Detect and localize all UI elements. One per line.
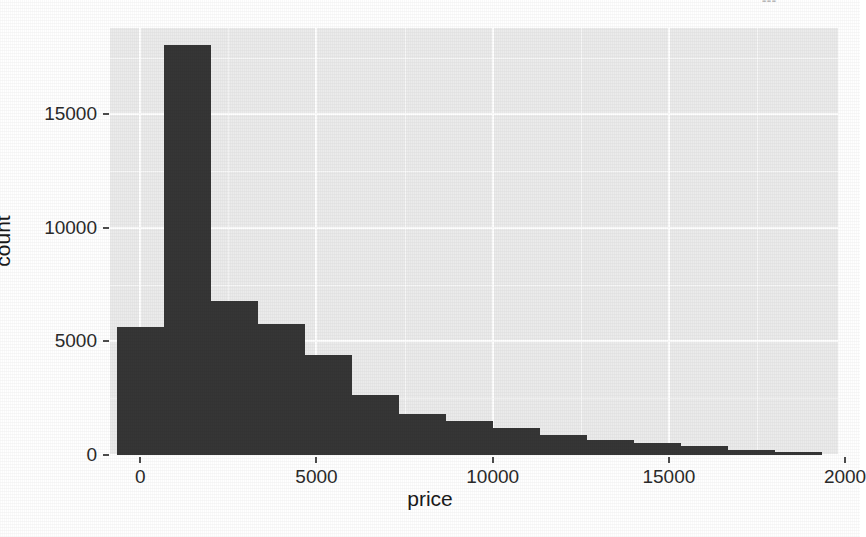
gridline-y-major bbox=[110, 227, 838, 229]
gridline-x-major bbox=[492, 28, 494, 455]
gridline-x-minor bbox=[757, 28, 758, 455]
histogram-bar bbox=[211, 301, 258, 455]
histogram-bar bbox=[681, 446, 728, 455]
gridline-x-major bbox=[668, 28, 670, 455]
y-tick-mark bbox=[103, 340, 109, 342]
x-axis-title: price bbox=[0, 487, 860, 511]
y-axis-title: count bbox=[0, 215, 15, 266]
gridline-y-minor bbox=[110, 171, 838, 172]
histogram-bar bbox=[775, 452, 822, 455]
histogram-bar bbox=[164, 45, 211, 455]
x-tick-label: 10000 bbox=[466, 466, 519, 488]
histogram-bar bbox=[587, 440, 634, 455]
y-tick-mark bbox=[103, 113, 109, 115]
y-tick-mark bbox=[103, 454, 109, 456]
x-tick-label: 5000 bbox=[295, 466, 337, 488]
y-tick-mark bbox=[103, 227, 109, 229]
x-tick-mark bbox=[668, 457, 670, 463]
histogram-bar bbox=[352, 395, 399, 455]
histogram-bar bbox=[493, 428, 540, 455]
histogram-bar bbox=[117, 327, 164, 455]
x-tick-label: 2000 bbox=[824, 466, 866, 488]
histogram-bar bbox=[634, 443, 681, 455]
gridline-x-minor bbox=[581, 28, 582, 455]
gridline-y-minor bbox=[110, 285, 838, 286]
plot-panel bbox=[110, 28, 838, 455]
page-edge-artifact-text: --- bbox=[762, 0, 777, 8]
x-tick-label: 15000 bbox=[642, 466, 695, 488]
histogram-bar bbox=[728, 450, 775, 455]
x-tick-mark bbox=[492, 457, 494, 463]
histogram-bar bbox=[446, 421, 493, 455]
y-tick-label: 5000 bbox=[0, 330, 97, 352]
y-tick-label: 15000 bbox=[0, 103, 97, 125]
gridline-x-minor bbox=[405, 28, 406, 455]
histogram-bar bbox=[305, 355, 352, 455]
gridline-y-minor bbox=[110, 58, 838, 59]
histogram-bar bbox=[258, 324, 305, 455]
x-tick-mark bbox=[844, 457, 846, 463]
x-tick-mark bbox=[139, 457, 141, 463]
gridline-y-major bbox=[110, 113, 838, 115]
x-tick-label: 0 bbox=[135, 466, 146, 488]
x-tick-mark bbox=[315, 457, 317, 463]
y-tick-label: 0 bbox=[0, 444, 97, 466]
histogram-bar bbox=[540, 435, 587, 455]
histogram-bar bbox=[399, 414, 446, 455]
